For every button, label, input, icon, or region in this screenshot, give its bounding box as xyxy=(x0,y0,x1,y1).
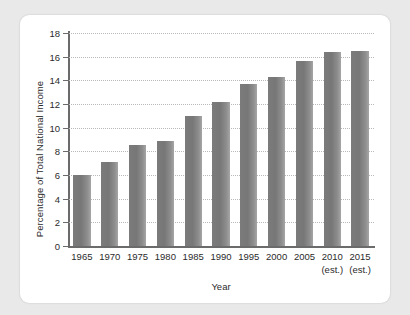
x-axis-line xyxy=(68,246,375,248)
x-axis-tick-label-year: 2000 xyxy=(266,251,287,262)
x-axis-title: Year xyxy=(68,281,374,292)
chart-card: Percentage of Total National Income 0246… xyxy=(20,15,390,303)
y-axis-tick-label: 8 xyxy=(55,146,60,157)
bar xyxy=(129,145,146,246)
y-axis-tick xyxy=(63,246,69,247)
bar xyxy=(101,162,118,246)
y-axis-tick-labels: 024681012141618 xyxy=(20,15,60,303)
y-axis-tick xyxy=(63,175,69,176)
x-axis-tick-label: 1980 xyxy=(155,251,176,264)
bar-series xyxy=(68,33,374,246)
y-axis-tick-label: 4 xyxy=(55,193,60,204)
y-axis-tick-label: 18 xyxy=(49,28,60,39)
y-axis-tick xyxy=(63,199,69,200)
bar xyxy=(212,102,229,246)
y-axis-tick xyxy=(63,128,69,129)
y-axis-tick-label: 10 xyxy=(49,122,60,133)
bar xyxy=(296,61,313,246)
x-axis-tick-label: 1975 xyxy=(127,251,148,264)
x-axis-tick-label: 1970 xyxy=(99,251,120,264)
x-axis-tick-label: 1995 xyxy=(238,251,259,264)
bar xyxy=(185,116,202,246)
x-axis-tick-label: 1965 xyxy=(71,251,92,264)
y-axis-tick xyxy=(63,104,69,105)
x-axis-tick-label-year: 2010 xyxy=(322,251,343,262)
x-axis-tick-label-year: 1975 xyxy=(127,251,148,262)
x-axis-tick-label: 2000 xyxy=(266,251,287,264)
y-axis-tick-label: 14 xyxy=(49,75,60,86)
x-axis-tick-label-note: (est.) xyxy=(321,264,343,277)
x-axis-tick-label: 2015(est.) xyxy=(349,251,371,276)
x-axis-tick-label-note: (est.) xyxy=(349,264,371,277)
x-axis-tick-label-year: 2005 xyxy=(294,251,315,262)
x-axis-tick-label: 1990 xyxy=(210,251,231,264)
x-axis-tick-label-year: 2015 xyxy=(350,251,371,262)
x-axis-tick-label-year: 1995 xyxy=(238,251,259,262)
bar xyxy=(73,175,90,246)
y-axis-tick-label: 16 xyxy=(49,51,60,62)
x-axis-tick-label: 2010(est.) xyxy=(321,251,343,276)
y-axis-tick-label: 12 xyxy=(49,99,60,110)
y-axis-tick xyxy=(63,80,69,81)
x-axis-tick-label: 2005 xyxy=(294,251,315,264)
x-axis-tick-label-year: 1990 xyxy=(210,251,231,262)
y-axis-tick xyxy=(63,222,69,223)
x-axis-tick-label-year: 1985 xyxy=(183,251,204,262)
bar xyxy=(157,141,174,246)
bar xyxy=(351,51,368,246)
y-axis-tick-label: 6 xyxy=(55,170,60,181)
y-axis-tick xyxy=(63,151,69,152)
y-axis-tick xyxy=(63,33,69,34)
bar xyxy=(324,52,341,246)
bar xyxy=(240,84,257,246)
y-axis-tick-label: 2 xyxy=(55,217,60,228)
x-axis-tick-label-year: 1980 xyxy=(155,251,176,262)
x-axis-tick-label-year: 1970 xyxy=(99,251,120,262)
x-axis-tick-label-year: 1965 xyxy=(71,251,92,262)
y-axis-tick xyxy=(63,57,69,58)
plot-area xyxy=(68,33,374,246)
x-axis-tick-label: 1985 xyxy=(183,251,204,264)
bar xyxy=(268,77,285,246)
y-axis-tick-label: 0 xyxy=(55,241,60,252)
